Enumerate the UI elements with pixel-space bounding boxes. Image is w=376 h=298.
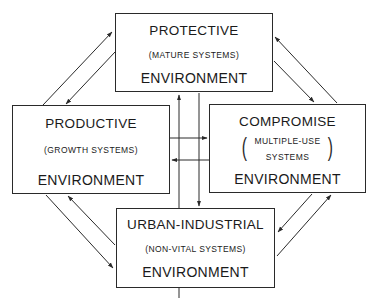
productive-footer: ENVIRONMENT xyxy=(13,172,169,188)
urban-subtitle: (NON-VITAL SYSTEMS) xyxy=(117,244,274,254)
right-parenthesis: ) xyxy=(328,132,333,163)
productive-subtitle: (GROWTH SYSTEMS) xyxy=(13,145,169,155)
productive-title: PRODUCTIVE xyxy=(13,116,169,131)
arrow-productive-to-urban xyxy=(46,195,113,268)
arrow-compromise-to-urban xyxy=(278,194,312,232)
arrow-protective-to-productive xyxy=(66,52,115,104)
compromise-subtitle-line2: SYSTEMS xyxy=(210,152,365,162)
urban-footer: ENVIRONMENT xyxy=(117,264,274,280)
productive-environment-box: PRODUCTIVE (GROWTH SYSTEMS) ENVIRONMENT xyxy=(12,105,170,194)
protective-title: PROTECTIVE xyxy=(116,23,272,38)
urban-title: URBAN-INDUSTRIAL xyxy=(117,217,274,232)
arrow-productive-to-protective xyxy=(43,32,112,105)
arrow-urban-to-compromise xyxy=(277,195,331,256)
arrow-urban-to-productive xyxy=(68,196,115,245)
compromise-environment-box: COMPROMISE ( MULTIPLE-USE SYSTEMS ) ENVI… xyxy=(209,104,366,193)
protective-footer: ENVIRONMENT xyxy=(116,70,272,86)
compromise-subtitle-line1: MULTIPLE-USE xyxy=(210,136,365,146)
arrow-protective-to-compromise xyxy=(274,61,314,102)
protective-environment-box: PROTECTIVE (MATURE SYSTEMS) ENVIRONMENT xyxy=(115,13,273,92)
compromise-footer: ENVIRONMENT xyxy=(210,171,365,187)
urban-industrial-environment-box: URBAN-INDUSTRIAL (NON-VITAL SYSTEMS) ENV… xyxy=(116,208,275,288)
compromise-title: COMPROMISE xyxy=(210,114,365,129)
protective-subtitle: (MATURE SYSTEMS) xyxy=(116,50,272,60)
